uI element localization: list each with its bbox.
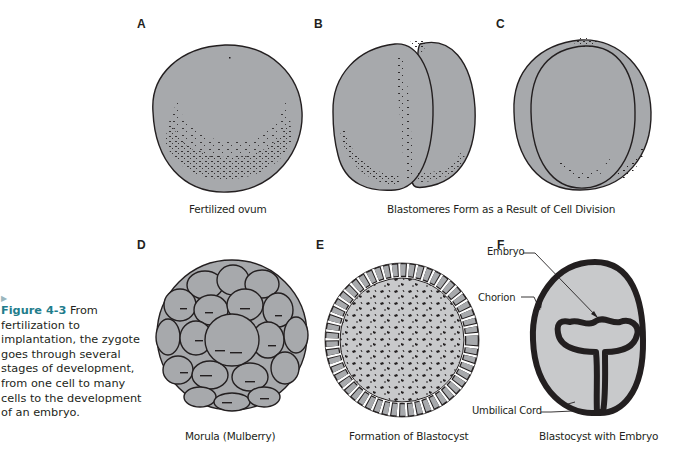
triangle-right-icon: ▶ [1,294,149,304]
figure-caption-text: From fertilization to implantation, the … [1,304,142,419]
morula-illustration [156,260,308,411]
blastocyst-with-embryo-illustration [533,253,643,413]
label-chorion: Chorion [478,292,515,303]
label-embryo: Embryo [487,246,524,257]
caption-fertilized-ovum: Fertilized ovum [189,203,267,215]
caption-blastomeres: Blastomeres Form as a Result of Cell Div… [387,203,615,215]
caption-morula: Morula (Mulberry) [185,430,275,442]
four-cell-stage-illustration [514,38,651,190]
figure-number: Figure 4-3 [1,304,66,317]
caption-blastocyst-with-embryo: Blastocyst with Embryo [539,430,658,442]
figure-caption: ▶ Figure 4-3 From fertilization to impla… [1,294,149,421]
label-umbilical-cord: Umbilical Cord [472,405,542,416]
two-cell-stage-illustration [333,40,475,190]
caption-blastocyst-formation: Formation of Blastocyst [349,430,468,442]
blastocyst-illustration [325,263,479,417]
